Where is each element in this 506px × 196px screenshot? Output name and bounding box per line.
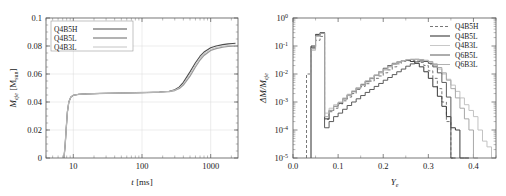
left-plot-panel: 10100100000.020.040.060.080.1t [ms]Meje … — [0, 0, 253, 196]
ytick-label: 0 — [38, 153, 42, 163]
ytick-label: 0.1 — [31, 13, 42, 23]
series-Q4B5H — [64, 43, 236, 158]
right-plot-panel: 0.00.10.20.30.410-510-410-310-210-1100Ye… — [253, 0, 506, 196]
x-axis-label: t [ms] — [131, 177, 152, 187]
xtick-label: 0.1 — [333, 161, 344, 171]
legend-label-Q4B3L: Q4B3L — [455, 41, 478, 50]
y-axis-label: Meje [Msun] — [8, 68, 19, 108]
series-Q4B3L — [64, 45, 236, 158]
ytick-label: 10-2 — [275, 69, 289, 79]
ejecta-mass-chart: 10100100000.020.040.060.080.1t [ms]Meje … — [0, 0, 253, 196]
hist-Q6B5L — [311, 33, 455, 158]
ytick-label: 10-1 — [275, 41, 289, 51]
xtick-label: 0.0 — [288, 161, 299, 171]
xtick-label: 0.3 — [423, 161, 434, 171]
ytick-label: 10-5 — [275, 153, 289, 163]
xtick-label: 0.2 — [378, 161, 389, 171]
legend-label-Q4B5L: Q4B5L — [455, 32, 478, 41]
xtick-label: 10 — [69, 161, 78, 171]
legend-label-Q4B3L: Q4B3L — [54, 43, 77, 52]
x-axis-label: Ye — [391, 177, 399, 188]
xtick-label: 0.4 — [468, 161, 479, 171]
xtick-label: 1000 — [202, 161, 219, 171]
ytick-label: 100 — [277, 13, 289, 23]
ytick-label: 10-4 — [275, 125, 289, 135]
figure-container: 10100100000.020.040.060.080.1t [ms]Meje … — [0, 0, 506, 196]
hist-Q4B5L — [311, 33, 469, 158]
legend-label-Q4B5H: Q4B5H — [455, 22, 479, 31]
legend-label-Q6B5L: Q6B5L — [455, 51, 478, 60]
hist-Q6B3L — [311, 33, 478, 158]
xtick-label: 100 — [136, 161, 149, 171]
legend: Q4B5HQ4B5LQ4B3L — [51, 21, 133, 52]
legend-label-Q6B3L: Q6B3L — [455, 60, 478, 69]
ytick-label: 0.02 — [27, 125, 42, 135]
ytick-label: 10-3 — [275, 97, 289, 107]
legend-label-Q4B5H: Q4B5H — [54, 25, 78, 34]
ytick-label: 0.04 — [27, 97, 43, 107]
electron-fraction-chart: 0.00.10.20.30.410-510-410-310-210-1100Ye… — [253, 0, 506, 196]
ytick-label: 0.08 — [27, 41, 42, 51]
legend-label-Q4B5L: Q4B5L — [54, 34, 77, 43]
legend: Q4B5HQ4B5LQ4B3LQ6B5LQ6B3L — [430, 22, 479, 69]
ytick-label: 0.06 — [27, 69, 42, 79]
y-axis-label: ΔM/Meje — [258, 73, 269, 104]
